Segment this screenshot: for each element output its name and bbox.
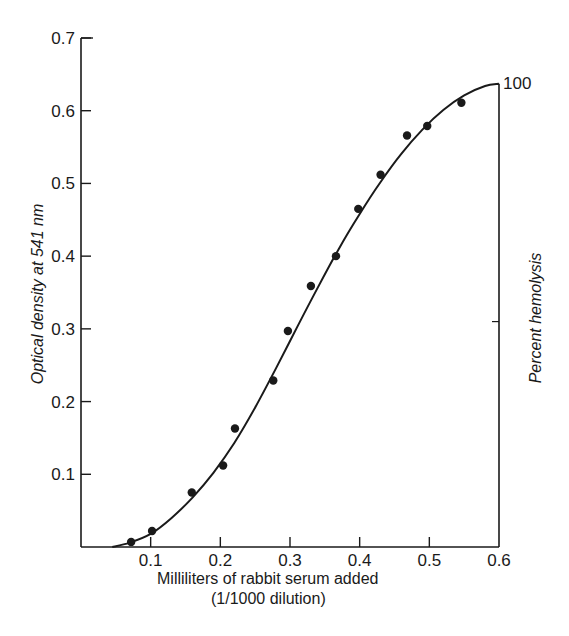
data-point (354, 205, 362, 213)
x-axis-title: Milliliters of rabbit serum added (157, 570, 378, 587)
data-point (376, 171, 384, 179)
y-tick-label: 0.5 (51, 174, 75, 193)
data-point (188, 488, 196, 496)
x-tick-label: 0.1 (139, 551, 163, 570)
data-point (457, 99, 465, 107)
fitted-curve (112, 84, 499, 547)
x-axis-subtitle: (1/1000 dilution) (211, 590, 326, 607)
right-axis-top-label: 100 (503, 74, 531, 93)
y-tick-label: 0.3 (51, 320, 75, 339)
data-point (231, 424, 239, 432)
y-tick-label: 0.1 (51, 465, 75, 484)
y-tick-label: 0.6 (51, 102, 75, 121)
y-axis-title-left: Optical density at 541 nm (29, 204, 46, 385)
sigmoid-curve (112, 84, 499, 547)
data-point (403, 131, 411, 139)
x-tick-label: 0.6 (487, 551, 511, 570)
x-tick-label: 0.3 (278, 551, 302, 570)
y-axis-title-right: Percent hemolysis (527, 253, 544, 384)
data-point (307, 282, 315, 290)
data-point (284, 327, 292, 335)
data-point (269, 376, 277, 384)
y-tick-label: 0.4 (51, 247, 75, 266)
x-tick-label: 0.2 (209, 551, 233, 570)
data-point (332, 252, 340, 260)
data-point (219, 461, 227, 469)
x-tick-label: 0.4 (348, 551, 372, 570)
data-point (127, 538, 135, 546)
data-point (148, 527, 156, 535)
data-points (127, 99, 466, 547)
y-tick-label: 0.2 (51, 393, 75, 412)
y-tick-label: 0.7 (51, 29, 75, 48)
axis-labels: Milliliters of rabbit serum added (1/100… (29, 74, 544, 607)
hemolysis-chart: 0.10.20.30.40.50.60.70.10.20.30.40.50.6 … (0, 0, 569, 636)
chart-canvas: 0.10.20.30.40.50.60.70.10.20.30.40.50.6 … (0, 0, 569, 636)
data-point (423, 122, 431, 130)
x-tick-label: 0.5 (418, 551, 442, 570)
